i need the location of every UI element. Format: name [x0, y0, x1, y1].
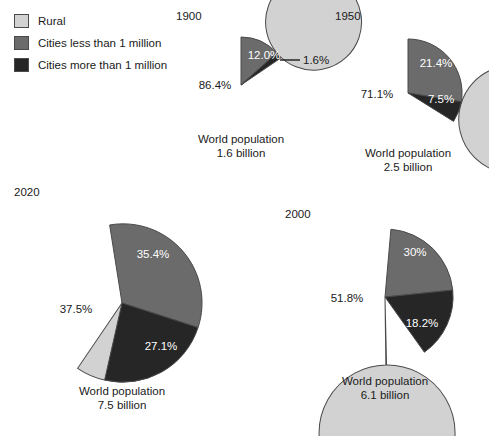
pie-block-2020: 2020 37.5% 35.4% 27.1% World population … [14, 186, 230, 436]
legend-swatch-cities-more-than-1m [14, 58, 29, 72]
pie-label-2020-cities-more-than-1m: 27.1% [145, 340, 178, 352]
pie-caption-2020-line2: 7.5 billion [52, 398, 192, 412]
pie-label-2000-cities-less-than-1m: 30% [403, 246, 426, 258]
pie-caption-2020-line1: World population [79, 385, 165, 397]
pie-label-2020-rural: 37.5% [60, 303, 93, 315]
pie-caption-2020: World population 7.5 billion [52, 384, 192, 412]
pie-label-1900-cities-less-than-1m: 12.0% [248, 49, 281, 61]
pie-label-2020-cities-less-than-1m: 35.4% [137, 248, 170, 260]
pie-label-2000-cities-more-than-1m: 18.2% [406, 317, 439, 329]
pie-caption-1900-line1: World population [198, 133, 284, 145]
pie-block-1900: 1900 86.4% 12.0% 1.6% World population 1… [176, 10, 316, 160]
pie-label-1950-cities-more-than-1m: 7.5% [428, 93, 454, 105]
pie-caption-2000: World population 6.1 billion [315, 374, 455, 402]
pie-chart-2020: 37.5% 35.4% 27.1% [14, 194, 230, 394]
legend-label-rural: Rural [38, 15, 65, 28]
pie-caption-1950-line2: 2.5 billion [338, 160, 478, 174]
pie-label-1900-cities-more-than-1m: 1.6% [303, 54, 329, 66]
legend-label-cities-more-than-1m: Cities more than 1 million [38, 59, 167, 72]
pie-slices-2000 [317, 229, 456, 436]
pie-label-2000-rural: 51.8% [331, 292, 364, 304]
pie-chart-1900: 86.4% 12.0% 1.6% [176, 16, 316, 136]
pie-caption-2000-line2: 6.1 billion [315, 388, 455, 402]
pie-block-1950: 1950 71.1% 21.4% 7.5% World population 2… [335, 10, 485, 180]
population-pie-figure: Rural Cities less than 1 million Cities … [0, 0, 489, 436]
pie-label-1950-cities-less-than-1m: 21.4% [420, 57, 453, 69]
pie-caption-1950-line1: World population [365, 147, 451, 159]
pie-chart-2000: 51.8% 30% 18.2% [285, 202, 485, 377]
pie-label-1950-rural: 71.1% [361, 88, 394, 100]
legend-swatch-cities-less-than-1m [14, 36, 29, 50]
legend-swatch-rural [14, 14, 29, 28]
pie-caption-2000-line1: World population [342, 375, 428, 387]
pie-slice-2000-cities-less-than-1m [385, 229, 453, 297]
pie-block-2000: 2000 51.8% 30% 18.2% World population 6.… [285, 202, 485, 436]
pie-caption-1900: World population 1.6 billion [171, 132, 311, 160]
pie-label-1900-rural: 86.4% [199, 79, 232, 91]
pie-caption-1900-line2: 1.6 billion [171, 146, 311, 160]
pie-chart-1950: 71.1% 21.4% 7.5% [335, 16, 485, 148]
pie-caption-1950: World population 2.5 billion [338, 146, 478, 174]
legend-label-cities-less-than-1m: Cities less than 1 million [38, 37, 161, 50]
